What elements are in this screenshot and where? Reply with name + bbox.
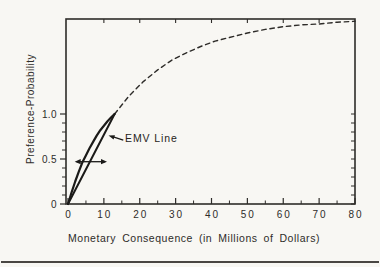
preference-probability-chart: Preference-Probability Monetary Conseque… — [0, 0, 380, 267]
axes-frame — [66, 19, 355, 204]
x-tick-label: 60 — [275, 209, 292, 220]
figure-page: Preference-Probability Monetary Conseque… — [0, 0, 380, 267]
preference-curve-extrapolated — [115, 21, 355, 114]
x-tick-label: 70 — [311, 209, 328, 220]
x-axis-title: Monetary Consequence (in Millions of Dol… — [68, 232, 320, 244]
bottom-rule — [1, 261, 379, 263]
chart-canvas — [0, 0, 380, 267]
x-tick-label: 40 — [203, 209, 220, 220]
y-tick-label: 0.5 — [33, 154, 57, 165]
x-tick-label: 20 — [131, 209, 148, 220]
emv-label-arrow-head — [109, 135, 115, 139]
y-tick-label: 0 — [33, 199, 57, 210]
x-tick-label: 30 — [167, 209, 184, 220]
y-tick-label: 1.0 — [33, 109, 57, 120]
gap-arrow-left-head — [75, 159, 81, 164]
x-tick-label: 0 — [63, 209, 73, 220]
x-tick-label: 50 — [239, 209, 256, 220]
emv-line-label: EMV Line — [125, 132, 178, 144]
x-tick-label: 10 — [95, 209, 112, 220]
gap-arrow-right-head — [101, 159, 107, 164]
x-tick-label: 80 — [346, 209, 363, 220]
emv-line — [68, 114, 115, 204]
